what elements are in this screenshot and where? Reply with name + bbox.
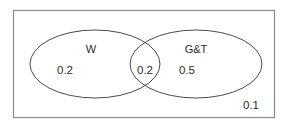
set-label-w: W xyxy=(86,43,97,55)
value-w-only: 0.2 xyxy=(57,64,73,76)
value-gt-only: 0.5 xyxy=(179,64,195,76)
value-outside-sets: 0.1 xyxy=(243,99,259,111)
venn-diagram: W G&T 0.2 0.2 0.5 0.1 xyxy=(0,0,287,127)
venn-diagram-canvas: W G&T 0.2 0.2 0.5 0.1 xyxy=(0,0,287,127)
set-label-gt: G&T xyxy=(185,43,208,55)
value-intersection: 0.2 xyxy=(137,64,153,76)
